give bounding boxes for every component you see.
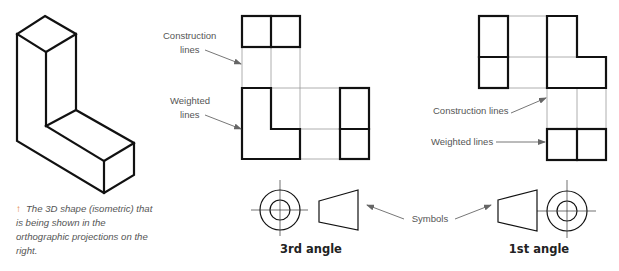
- isometric-edge: [46, 126, 104, 161]
- construction-lines-label-2: lines: [180, 44, 200, 55]
- third-angle-construction-lines: [242, 47, 340, 159]
- third-angle-pointer-arrows: [205, 50, 241, 129]
- third-angle-side-view: [340, 88, 369, 159]
- third-angle-symbol-frustum: [319, 190, 358, 230]
- isometric-edge: [46, 110, 76, 126]
- construction-lines-label: Construction: [163, 30, 216, 41]
- first-angle-construction-lines: [508, 16, 606, 129]
- first-angle-projection: Construction lines Weighted lines 1st an…: [431, 16, 606, 256]
- pointer-arrow: [511, 98, 546, 113]
- third-angle-top-view: [242, 16, 300, 47]
- first-angle-top-view: [547, 129, 606, 160]
- first-angle-symbol: [498, 180, 596, 238]
- isometric-outline: [17, 16, 134, 193]
- third-angle-projection: Construction lines Weighted lines 3rd an…: [163, 16, 369, 256]
- first-angle-weighted-lines-label: Weighted lines: [431, 136, 493, 147]
- isometric-l-shape: [17, 16, 134, 193]
- isometric-edge: [17, 34, 46, 52]
- weighted-lines-label: Weighted: [170, 95, 210, 106]
- isometric-edge: [104, 143, 134, 161]
- third-angle-symbol: [251, 180, 358, 236]
- caption-text: The 3D shape (isometric) that is being s…: [16, 203, 152, 256]
- first-angle-front-view: [547, 16, 606, 88]
- first-angle-side-view: [479, 16, 508, 88]
- symbols-arrow: [455, 205, 491, 219]
- up-arrow-icon: ↑: [16, 203, 21, 214]
- third-angle-side-view-outline: [340, 88, 369, 159]
- weighted-lines-label-2: lines: [180, 109, 200, 120]
- pointer-arrow: [205, 115, 241, 129]
- first-angle-side-view-outline: [479, 16, 508, 88]
- symbols-label: Symbols: [412, 213, 449, 224]
- pointer-arrow: [205, 50, 241, 64]
- third-angle-title: 3rd angle: [280, 242, 342, 256]
- isometric-caption: ↑The 3D shape (isometric) that is being …: [16, 202, 156, 258]
- third-angle-front-view: [242, 88, 300, 159]
- symbols-callout: Symbols: [367, 205, 491, 224]
- orthographic-projection-diagram: Construction lines Weighted lines 3rd an…: [0, 0, 619, 271]
- first-angle-title: 1st angle: [509, 242, 569, 256]
- first-angle-symbol-frustum: [498, 190, 537, 231]
- first-angle-construction-lines-label: Construction lines: [433, 105, 509, 116]
- isometric-edge: [46, 34, 76, 52]
- symbols-arrow: [367, 205, 404, 219]
